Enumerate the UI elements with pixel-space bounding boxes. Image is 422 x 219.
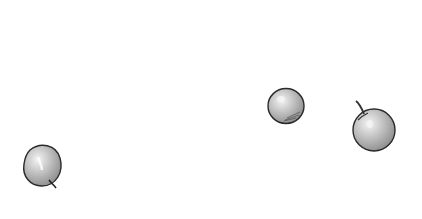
- apple-left: [24, 145, 61, 188]
- scene-canvas: [0, 0, 422, 219]
- apple-middle: [268, 89, 304, 124]
- stem-icon: [356, 101, 364, 114]
- apple-right: [353, 101, 395, 151]
